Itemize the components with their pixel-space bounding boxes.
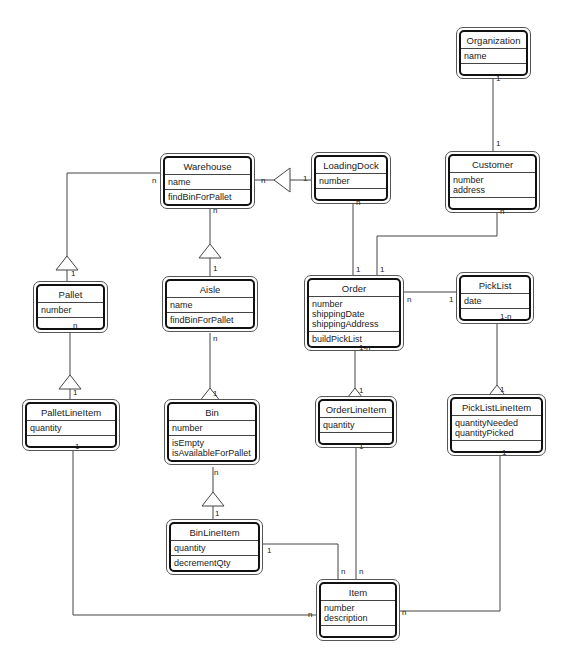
attributes: number address xyxy=(450,173,535,198)
operations xyxy=(38,318,103,328)
multiplicity-label: 1 xyxy=(356,265,360,274)
operations: findBinForPallet xyxy=(165,190,250,204)
multiplicity-label: 1 xyxy=(215,509,219,518)
attributes: number description xyxy=(321,601,395,626)
multiplicity-label: n xyxy=(73,321,77,330)
multiplicity-label: n xyxy=(402,608,406,617)
class-order[interactable]: Order number shippingDate shippingAddres… xyxy=(304,275,404,351)
operations: buildPickList xyxy=(309,332,399,346)
multiplicity-label: n xyxy=(213,206,217,215)
class-name: Aisle xyxy=(167,281,253,298)
operations xyxy=(461,309,529,319)
operations xyxy=(27,436,115,446)
class-item[interactable]: Item number description xyxy=(316,579,400,641)
class-aisle[interactable]: Aisle name findBinForPallet xyxy=(162,276,258,332)
uml-diagram: Organization name Customer number addres… xyxy=(0,0,570,653)
class-name: LoadingDock xyxy=(316,157,386,174)
operations xyxy=(452,441,541,451)
attributes: quantity xyxy=(320,418,392,433)
class-name: Order xyxy=(309,280,399,297)
class-name: Item xyxy=(321,584,395,601)
class-warehouse[interactable]: Warehouse name findBinForPallet xyxy=(160,153,255,209)
multiplicity-label: n xyxy=(308,610,312,619)
attributes: quantity xyxy=(27,421,115,436)
class-name: Pallet xyxy=(38,286,103,303)
multiplicity-label: 1 xyxy=(71,269,75,278)
multiplicity-label: 1 xyxy=(75,442,79,451)
multiplicity-label: 1 xyxy=(449,295,453,304)
class-binlineitem[interactable]: BinLineItem quantity decrementQty xyxy=(166,519,263,575)
multiplicity-label: n xyxy=(407,295,411,304)
operations: decrementQty xyxy=(171,556,258,570)
operations xyxy=(316,189,386,199)
class-palletlineitem[interactable]: PalletLineItem quantity xyxy=(22,399,120,451)
class-name: PickList xyxy=(461,277,529,294)
multiplicity-label: 1 xyxy=(213,389,217,398)
attributes: number xyxy=(316,174,386,189)
multiplicity-label: n xyxy=(214,468,218,477)
multiplicity-label: n xyxy=(356,198,360,207)
operations: findBinForPallet xyxy=(167,313,253,327)
multiplicity-label: 1 xyxy=(380,265,384,274)
class-name: Warehouse xyxy=(165,158,250,175)
attributes: name xyxy=(167,298,253,313)
operations xyxy=(321,626,395,636)
attributes: quantityNeeded quantityPicked xyxy=(452,416,541,441)
multiplicity-label: 1-n xyxy=(359,343,371,352)
multiplicity-label: n xyxy=(152,176,156,185)
multiplicity-label: 1-n xyxy=(500,312,512,321)
multiplicity-label: 1 xyxy=(496,74,500,83)
multiplicity-label: 1 xyxy=(502,448,506,457)
operations xyxy=(320,433,392,443)
multiplicity-label: 1 xyxy=(359,442,363,451)
attributes: name xyxy=(165,175,250,190)
class-name: Customer xyxy=(450,156,535,173)
class-name: Organization xyxy=(461,32,526,49)
attributes: number xyxy=(169,421,255,436)
operations: isEmpty isAvailableForPallet xyxy=(169,436,255,460)
multiplicity-label: n xyxy=(261,176,265,185)
attributes: quantity xyxy=(171,541,258,556)
class-picklist[interactable]: PickList date xyxy=(456,272,534,324)
class-organization[interactable]: Organization name xyxy=(456,27,531,79)
class-orderlineitem[interactable]: OrderLineItem quantity xyxy=(315,396,397,448)
multiplicity-label: n xyxy=(359,567,363,576)
multiplicity-label: 1 xyxy=(303,174,307,183)
multiplicity-label: 1 xyxy=(500,385,504,394)
multiplicity-label: 1 xyxy=(213,264,217,273)
class-pallet[interactable]: Pallet number xyxy=(33,281,108,333)
multiplicity-label: 1 xyxy=(496,139,500,148)
class-bin[interactable]: Bin number isEmpty isAvailableForPallet xyxy=(164,399,260,465)
class-customer[interactable]: Customer number address xyxy=(445,151,540,213)
attributes: name xyxy=(461,49,526,64)
multiplicity-label: n xyxy=(213,334,217,343)
class-name: Bin xyxy=(169,404,255,421)
attributes: number shippingDate shippingAddress xyxy=(309,297,399,332)
class-name: PalletLineItem xyxy=(27,404,115,421)
class-name: BinLineItem xyxy=(171,524,258,541)
aggregation-triangle xyxy=(274,168,290,192)
multiplicity-label: 1 xyxy=(73,388,77,397)
multiplicity-label: n xyxy=(341,567,345,576)
class-picklistlineitem[interactable]: PickListLineItem quantityNeeded quantity… xyxy=(447,394,546,456)
attributes: number xyxy=(38,303,103,318)
operations xyxy=(461,64,526,74)
attributes: date xyxy=(461,294,529,309)
class-loadingdock[interactable]: LoadingDock number xyxy=(311,152,391,204)
multiplicity-label: 1 xyxy=(359,386,363,395)
class-name: PickListLineItem xyxy=(452,399,541,416)
class-name: OrderLineItem xyxy=(320,401,392,418)
multiplicity-label: 1 xyxy=(267,546,271,555)
operations xyxy=(450,198,535,208)
multiplicity-label: n xyxy=(500,207,504,216)
